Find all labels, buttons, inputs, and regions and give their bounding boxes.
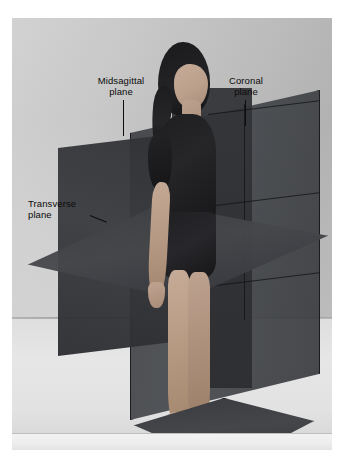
standing-figure	[130, 42, 240, 450]
figure-hand	[148, 282, 165, 308]
leader-line-midsagittal	[123, 100, 124, 136]
label-coronal-plane: Coronal plane	[215, 75, 277, 97]
anatomical-planes-figure: Midsagittal plane Coronal plane Transver…	[0, 0, 344, 461]
figure-left-leg	[168, 270, 190, 422]
label-midsagittal-plane: Midsagittal plane	[84, 75, 158, 97]
photograph-plate: Midsagittal plane Coronal plane Transver…	[12, 18, 332, 450]
label-transverse-plane: Transverse plane	[28, 198, 98, 220]
plane-vertical-construction-line	[244, 104, 245, 320]
figure-arm	[147, 182, 171, 295]
baseboard-strip	[12, 433, 332, 450]
figure-right-leg	[188, 272, 210, 422]
leader-line-coronal	[245, 100, 246, 126]
